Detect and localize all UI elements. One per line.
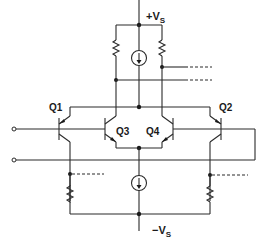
resistor-bottom-right xyxy=(207,173,248,214)
input-terminal-top[interactable] xyxy=(12,127,16,131)
circuit-diagram: +VS Q1 xyxy=(0,0,266,247)
input-bottom xyxy=(12,158,210,162)
positive-supply: +VS xyxy=(116,0,166,27)
label-q1: Q1 xyxy=(49,102,63,113)
negative-supply: −VS xyxy=(70,212,210,239)
current-source-top xyxy=(132,25,147,107)
transistor-q2: Q2 xyxy=(210,102,233,201)
top-output-lines xyxy=(114,65,212,82)
label-q4: Q4 xyxy=(146,126,160,137)
label-minus-vs: −VS xyxy=(152,224,172,239)
resistor-bottom-left xyxy=(67,172,104,214)
label-q3: Q3 xyxy=(116,126,130,137)
resistor-top-right xyxy=(159,25,165,67)
transistor-q3: Q3 xyxy=(105,80,130,148)
right-base-loop xyxy=(173,129,255,160)
transistor-q1: Q1 xyxy=(49,102,70,201)
resistor-top-left xyxy=(113,25,119,80)
input-terminal-bottom[interactable] xyxy=(12,158,16,162)
label-q2: Q2 xyxy=(219,102,233,113)
collector-rail xyxy=(70,105,210,116)
label-plus-vs: +VS xyxy=(146,10,166,25)
